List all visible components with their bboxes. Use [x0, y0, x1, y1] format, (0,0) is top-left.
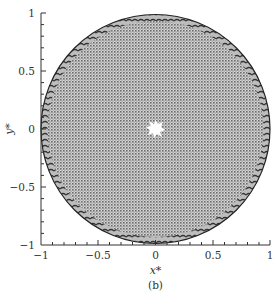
y-tick-label: 1 — [28, 7, 35, 19]
x-tick-label: 0.5 — [205, 249, 222, 261]
y-tick-label: 0 — [28, 123, 35, 135]
y-axis-label: y* — [3, 123, 16, 136]
y-tick-label: −0.5 — [10, 181, 36, 193]
x-axis — [41, 240, 270, 245]
figure: 1 0.5 0 −0.5 −1 −1 −0.5 0 0.5 1 x* y* (b… — [0, 0, 274, 297]
x-tick-label: −1 — [33, 249, 48, 261]
y-tick-label: 0.5 — [18, 65, 35, 77]
x-axis-label: x* — [150, 264, 162, 277]
x-tick-label: 0 — [152, 249, 159, 261]
particle-cloud — [41, 15, 270, 244]
x-tick-label: 1 — [267, 249, 274, 261]
x-tick-label: −0.5 — [85, 249, 111, 261]
figure-caption: (b) — [148, 279, 163, 291]
y-axis — [41, 13, 46, 245]
